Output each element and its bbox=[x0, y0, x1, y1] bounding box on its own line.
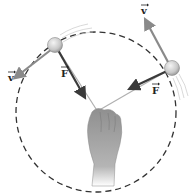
hand-illustration bbox=[88, 108, 122, 186]
motion-streaks-ball-1 bbox=[60, 24, 93, 42]
velocity-arrow-ball-2 bbox=[146, 21, 168, 62]
ball-1 bbox=[48, 38, 63, 53]
svg-text:v: v bbox=[7, 72, 15, 83]
svg-text:F: F bbox=[152, 85, 159, 96]
svg-text:v: v bbox=[140, 5, 148, 16]
ball-2 bbox=[165, 61, 180, 76]
svg-text:F: F bbox=[61, 68, 68, 79]
force-arrow-ball-2 bbox=[131, 71, 167, 88]
motion-streaks-ball-2 bbox=[173, 74, 188, 100]
label-v-ball-1: v bbox=[7, 71, 16, 84]
label-v-ball-2: v bbox=[140, 4, 149, 17]
label-f-ball-1: F bbox=[61, 66, 69, 80]
label-f-ball-2: F bbox=[152, 83, 160, 97]
velocity-arrow-ball-1 bbox=[16, 49, 52, 77]
circular-motion-diagram: v F v F bbox=[0, 0, 190, 193]
